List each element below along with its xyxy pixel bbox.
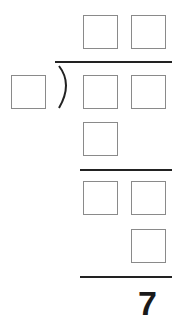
division-bar <box>55 61 172 63</box>
quotient-tens-box[interactable] <box>83 15 118 49</box>
dividend-ones-box[interactable] <box>131 75 166 109</box>
second-product-box[interactable] <box>131 229 166 263</box>
divisor-box[interactable] <box>11 75 46 109</box>
division-bracket-icon <box>55 64 73 110</box>
first-product-box[interactable] <box>83 122 118 156</box>
second-row-ones-box[interactable] <box>131 181 166 215</box>
second-subtraction-line <box>80 276 172 278</box>
remainder-digit: 7 <box>138 286 157 320</box>
dividend-tens-box[interactable] <box>83 75 118 109</box>
second-row-tens-box[interactable] <box>83 181 118 215</box>
quotient-ones-box[interactable] <box>131 15 166 49</box>
first-subtraction-line <box>80 169 172 171</box>
